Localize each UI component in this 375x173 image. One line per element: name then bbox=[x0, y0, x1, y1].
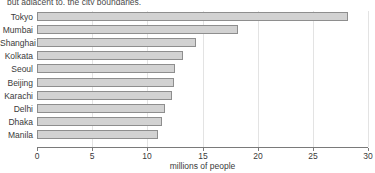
bar-row: Seoul bbox=[0, 63, 375, 76]
category-label-manila: Manila bbox=[0, 130, 33, 141]
category-label-shanghai: Shanghai bbox=[0, 38, 33, 49]
bar-mumbai bbox=[37, 25, 238, 34]
category-label-dhaka: Dhaka bbox=[0, 117, 33, 128]
tick-label-25: 25 bbox=[308, 151, 317, 161]
bar-row: Beijing bbox=[0, 77, 375, 90]
category-label-tokyo: Tokyo bbox=[0, 12, 33, 23]
category-label-karachi: Karachi bbox=[0, 91, 33, 102]
bar-delhi bbox=[37, 104, 165, 113]
bar-shanghai bbox=[37, 38, 196, 47]
category-label-kolkata: Kolkata bbox=[0, 51, 33, 62]
bar-tokyo bbox=[37, 12, 348, 21]
tick-label-20: 20 bbox=[253, 151, 262, 161]
bar-rows: TokyoMumbaiShanghaiKolkataSeoulBeijingKa… bbox=[0, 11, 375, 147]
category-label-beijing: Beijing bbox=[0, 78, 33, 89]
plot-area: TokyoMumbaiShanghaiKolkataSeoulBeijingKa… bbox=[0, 11, 375, 147]
bar-dhaka bbox=[37, 117, 162, 126]
x-axis-title: millions of people bbox=[37, 161, 368, 171]
bar-karachi bbox=[37, 91, 172, 100]
bar-row: Delhi bbox=[0, 103, 375, 116]
category-label-seoul: Seoul bbox=[0, 64, 33, 75]
tick-label-5: 5 bbox=[90, 151, 95, 161]
tick-label-15: 15 bbox=[198, 151, 207, 161]
category-label-delhi: Delhi bbox=[0, 104, 33, 115]
bar-manila bbox=[37, 130, 158, 139]
tick-label-30: 30 bbox=[363, 151, 372, 161]
tick-label-0: 0 bbox=[35, 151, 40, 161]
bar-kolkata bbox=[37, 51, 183, 60]
chart-page: but adjacent to, the city boundaries. To… bbox=[0, 0, 375, 173]
tick-label-10: 10 bbox=[142, 151, 151, 161]
bar-row: Kolkata bbox=[0, 50, 375, 63]
bar-row: Shanghai bbox=[0, 37, 375, 50]
bar-row: Manila bbox=[0, 129, 375, 142]
bar-row: Tokyo bbox=[0, 11, 375, 24]
category-label-mumbai: Mumbai bbox=[0, 25, 33, 36]
bar-row: Dhaka bbox=[0, 116, 375, 129]
bar-seoul bbox=[37, 64, 175, 73]
bar-row: Mumbai bbox=[0, 24, 375, 37]
figure-caption: but adjacent to, the city boundaries. bbox=[7, 0, 337, 5]
bar-row: Karachi bbox=[0, 90, 375, 103]
bar-beijing bbox=[37, 78, 174, 87]
